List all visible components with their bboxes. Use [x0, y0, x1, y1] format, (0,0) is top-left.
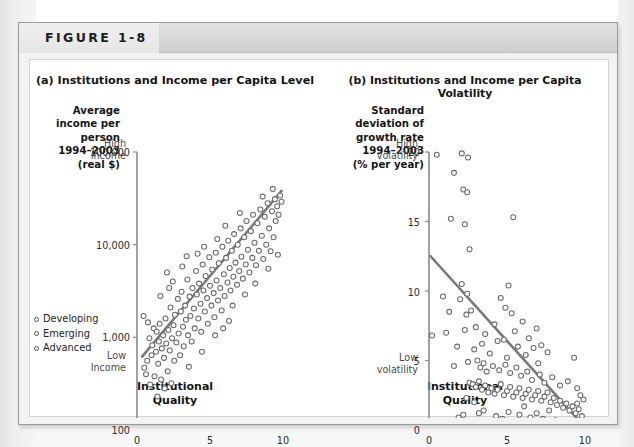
- legend: Developing Emerging Advanced: [34, 312, 98, 356]
- panel-a-xtick: 5: [207, 435, 213, 446]
- figure-plate: (a) Institutions and Income per Capita L…: [29, 59, 609, 417]
- legend-label: Developing: [43, 312, 98, 327]
- legend-item-emerging: Emerging: [34, 327, 98, 342]
- panel-b-xtick: 0: [426, 435, 432, 446]
- panel-b-xtick: 5: [504, 435, 510, 446]
- panel-a-xtick: 10: [277, 435, 289, 446]
- open-circle-icon: [34, 346, 39, 351]
- legend-item-advanced: Advanced: [34, 341, 98, 356]
- figure-container: FIGURE 1-8 (a) Institutions and Income p…: [18, 22, 618, 425]
- legend-label: Emerging: [43, 327, 90, 342]
- page-right-gutter: [618, 0, 634, 447]
- panel-b: (b) Institutions and Income per Capita V…: [320, 60, 610, 418]
- figure-header-band: FIGURE 1-8: [19, 23, 617, 53]
- open-circle-icon: [34, 317, 39, 322]
- panel-b-scatter-plot: [320, 60, 610, 418]
- panel-a: (a) Institutions and Income per Capita L…: [30, 60, 320, 418]
- panel-b-ytick: 0: [384, 425, 420, 436]
- panel-a-scatter-plot: [30, 60, 320, 418]
- panel-a-ytick: 100: [78, 425, 130, 436]
- legend-label: Advanced: [43, 341, 91, 356]
- legend-item-developing: Developing: [34, 312, 98, 327]
- open-circle-icon: [34, 331, 39, 336]
- panel-a-xtick: 0: [134, 435, 140, 446]
- figure-number-label: FIGURE 1-8: [45, 30, 148, 45]
- panel-b-xtick: 10: [579, 435, 591, 446]
